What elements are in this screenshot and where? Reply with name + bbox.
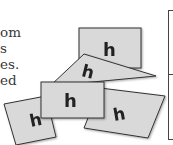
card-figure: h h h h h: [0, 0, 173, 145]
card-front: h: [41, 82, 104, 118]
side-table-divider: [169, 74, 173, 75]
card-letter: h: [64, 90, 77, 111]
card-letter: h: [103, 39, 116, 60]
side-table-box: [168, 10, 173, 140]
